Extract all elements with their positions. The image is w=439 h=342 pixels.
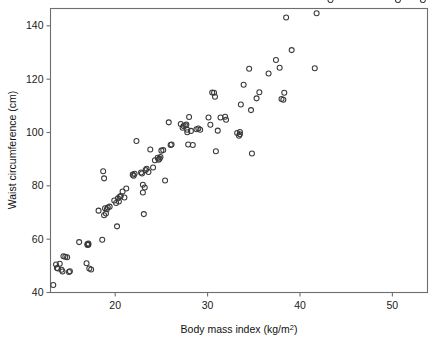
data-point: [395, 0, 400, 3]
y-axis-ticks: 406080100120140: [26, 19, 51, 298]
scatter-plot-figure: 406080100120140 20304050 Body mass index…: [0, 0, 439, 342]
x-tick-label: 50: [387, 299, 399, 311]
data-points-layer: [51, 0, 426, 288]
data-point: [241, 82, 246, 87]
data-point: [140, 190, 145, 195]
y-tick-label: 140: [26, 19, 44, 31]
data-point: [163, 178, 168, 183]
data-point: [249, 151, 254, 156]
data-point: [206, 115, 211, 120]
data-point: [215, 128, 220, 133]
y-tick-label: 100: [26, 126, 44, 138]
data-point: [249, 108, 254, 113]
x-tick-label: 30: [202, 299, 214, 311]
chart-canvas: 406080100120140 20304050 Body mass index…: [0, 0, 439, 342]
data-point: [115, 224, 120, 229]
data-point: [60, 269, 65, 274]
data-point: [273, 57, 278, 62]
y-tick-label: 40: [32, 286, 44, 298]
data-point: [134, 139, 139, 144]
data-point: [96, 208, 101, 213]
data-point: [141, 212, 146, 217]
data-point: [208, 122, 213, 127]
data-point: [213, 149, 218, 154]
y-tick-label: 80: [32, 179, 44, 191]
data-point: [312, 66, 317, 71]
data-point: [187, 115, 192, 120]
x-axis-ticks: 20304050: [109, 293, 398, 311]
x-tick-label: 20: [109, 299, 121, 311]
x-tick-label: 40: [294, 299, 306, 311]
data-point: [277, 65, 282, 70]
data-point: [84, 261, 89, 266]
data-point: [101, 169, 106, 174]
data-point: [100, 237, 105, 242]
data-point: [314, 11, 319, 16]
data-point: [151, 165, 156, 170]
data-point: [247, 66, 252, 71]
data-point: [148, 147, 153, 152]
data-point: [289, 48, 294, 53]
data-point: [124, 186, 129, 191]
data-point: [238, 102, 243, 107]
data-point: [102, 176, 107, 181]
data-point: [284, 15, 289, 20]
data-point: [224, 117, 229, 122]
x-axis-title: Body mass index (kg/m2): [181, 323, 298, 336]
data-point: [254, 96, 259, 101]
data-point: [420, 0, 425, 3]
y-axis-title: Waist circumference (cm): [6, 91, 18, 210]
data-point: [282, 90, 287, 95]
y-tick-label: 60: [32, 233, 44, 245]
data-point: [51, 283, 56, 288]
data-point: [257, 90, 262, 95]
y-tick-label: 120: [26, 73, 44, 85]
plot-frame: [51, 9, 428, 293]
data-point: [77, 240, 82, 245]
data-point: [166, 120, 171, 125]
data-point: [266, 71, 271, 76]
data-point: [328, 0, 333, 3]
